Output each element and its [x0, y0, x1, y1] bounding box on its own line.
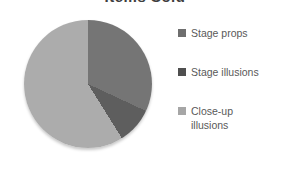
pie-chart-figure: Items Sold Stage propsStage illusionsClo…	[0, 0, 288, 193]
legend-item: Stage illusions	[178, 65, 284, 79]
pie-chart	[24, 20, 152, 148]
legend-swatch-icon	[178, 68, 186, 76]
legend-label: Close-upillusions	[191, 104, 233, 132]
legend-label: Stage props	[191, 26, 248, 40]
legend-item: Close-upillusions	[178, 104, 284, 132]
legend-item: Stage props	[178, 26, 284, 40]
chart-title: Items Sold	[0, 0, 288, 5]
legend-swatch-icon	[178, 107, 186, 115]
legend-label: Stage illusions	[191, 65, 259, 79]
legend-swatch-icon	[178, 29, 186, 37]
legend: Stage propsStage illusionsClose-upillusi…	[178, 26, 284, 157]
